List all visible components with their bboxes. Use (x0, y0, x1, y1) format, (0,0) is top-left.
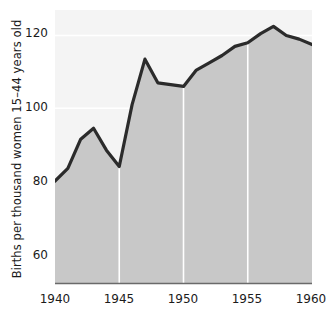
chart-container: Births per thousand women 15–44 years ol… (0, 0, 325, 315)
plot-area (0, 0, 325, 315)
